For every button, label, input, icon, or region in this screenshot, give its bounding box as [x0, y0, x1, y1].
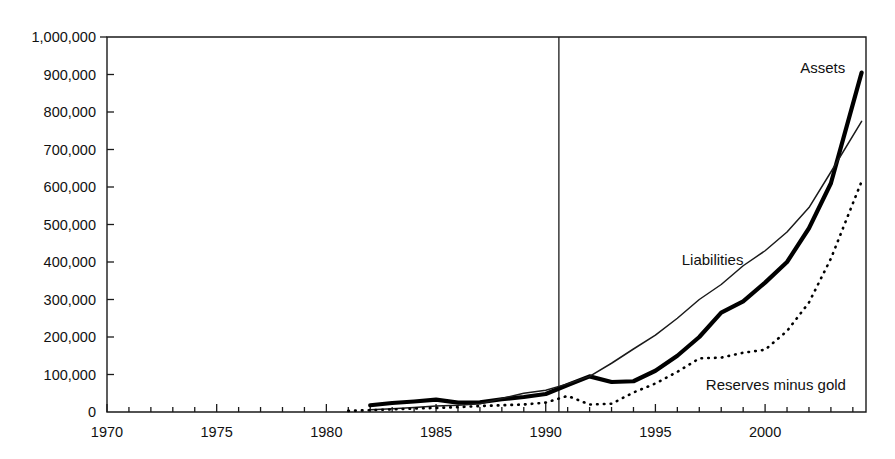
x-tick-label: 1980	[310, 424, 342, 440]
y-tick-label: 100,000	[44, 367, 96, 383]
plot-border	[107, 37, 866, 412]
x-tick-label: 1985	[420, 424, 452, 440]
series-line-assets	[370, 73, 861, 406]
y-tick-label: 400,000	[44, 254, 96, 270]
y-tick-label: 900,000	[44, 67, 96, 83]
y-tick-label: 500,000	[44, 217, 96, 233]
x-tick-label: 1970	[91, 424, 123, 440]
series-label-liabilities: Liabilities	[682, 251, 744, 268]
data-series	[348, 73, 861, 411]
x-tick-label: 1975	[201, 424, 233, 440]
x-tick-label: 2000	[749, 424, 781, 440]
y-tick-label: 0	[88, 404, 96, 420]
series-line-liabilities	[370, 121, 861, 409]
y-tick-label: 200,000	[44, 329, 96, 345]
series-label-assets: Assets	[800, 59, 845, 76]
y-tick-label: 300,000	[44, 292, 96, 308]
y-tick-label: 600,000	[44, 179, 96, 195]
x-axis-ticks	[107, 404, 853, 412]
series-labels: Assets Liabilities Reserves minus gold	[682, 59, 846, 393]
x-tick-label: 1990	[530, 424, 562, 440]
y-tick-label: 700,000	[44, 142, 96, 158]
x-tick-label: 1995	[639, 424, 671, 440]
series-label-reserves: Reserves minus gold	[706, 376, 846, 393]
x-axis-tick-labels: 1970197519801985199019952000	[91, 424, 781, 440]
plot-frame	[107, 37, 866, 412]
y-tick-label: 1,000,000	[31, 29, 96, 45]
line-chart: 0100,000200,000300,000400,000500,000600,…	[0, 0, 895, 459]
y-axis-tick-labels: 0100,000200,000300,000400,000500,000600,…	[31, 29, 96, 420]
y-tick-label: 800,000	[44, 104, 96, 120]
chart-container: 0100,000200,000300,000400,000500,000600,…	[0, 0, 895, 459]
